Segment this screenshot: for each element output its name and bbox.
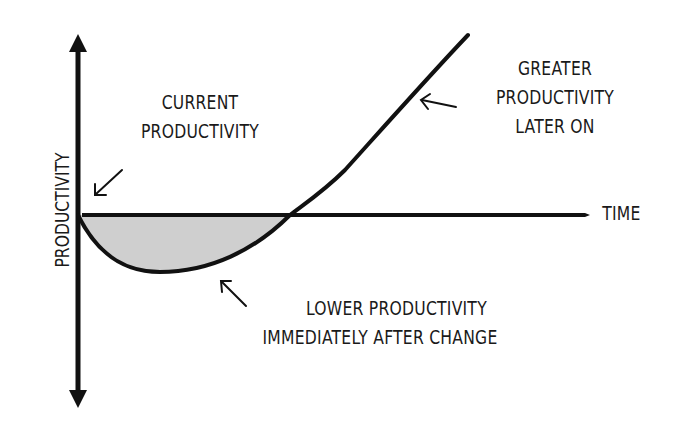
current-productivity-label: CURRENT PRODUCTIVITY (118, 88, 282, 146)
current-line1: CURRENT (118, 88, 282, 117)
x-axis (82, 213, 590, 217)
y-axis-arrow-down-icon (69, 390, 87, 408)
current-line2: PRODUCTIVITY (118, 117, 282, 146)
lower-line2: IMMEDIATELY AFTER CHANGE (241, 323, 520, 352)
y-axis-arrow-up-icon (69, 34, 87, 52)
greater-line1: GREATER (473, 54, 637, 83)
lower-productivity-label: LOWER PRODUCTIVITY IMMEDIATELY AFTER CHA… (241, 294, 520, 352)
greater-productivity-label: GREATER PRODUCTIVITY LATER ON (473, 54, 637, 141)
greater-productivity-arrow-icon (421, 94, 456, 109)
greater-line2: PRODUCTIVITY (473, 83, 637, 112)
y-axis-label: PRODUCTIVITY (51, 152, 73, 267)
x-axis-label: TIME (602, 199, 640, 228)
lower-line1: LOWER PRODUCTIVITY (241, 294, 520, 323)
current-productivity-arrow-icon (95, 170, 122, 195)
greater-line3: LATER ON (473, 112, 637, 141)
